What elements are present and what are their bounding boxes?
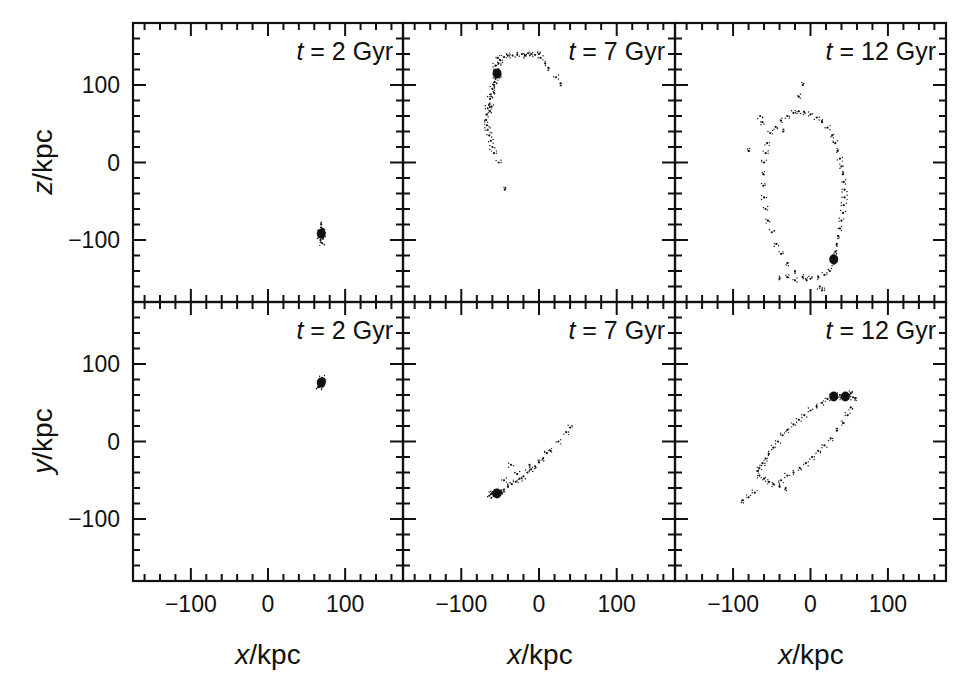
data-point bbox=[783, 129, 784, 130]
data-point bbox=[513, 481, 514, 482]
data-point bbox=[812, 409, 813, 410]
data-point bbox=[503, 491, 504, 492]
time-value: = 2 Gyr bbox=[303, 316, 393, 344]
data-point bbox=[763, 123, 764, 124]
data-point bbox=[491, 150, 492, 151]
data-point bbox=[842, 171, 843, 172]
data-point bbox=[803, 414, 805, 416]
data-point bbox=[490, 491, 491, 492]
data-point bbox=[801, 414, 802, 415]
data-point bbox=[490, 497, 491, 498]
data-point bbox=[489, 104, 490, 105]
data-point bbox=[764, 185, 765, 186]
data-point bbox=[743, 500, 744, 501]
data-point bbox=[800, 94, 801, 95]
data-point bbox=[808, 411, 809, 412]
data-point bbox=[503, 479, 505, 481]
data-point bbox=[814, 119, 815, 120]
data-point bbox=[831, 268, 832, 269]
data-point bbox=[801, 82, 802, 83]
data-point bbox=[788, 262, 789, 263]
data-point bbox=[814, 456, 815, 457]
data-point bbox=[491, 146, 493, 148]
data-point bbox=[529, 55, 530, 56]
data-point bbox=[508, 466, 509, 467]
data-point bbox=[758, 468, 759, 469]
data-point bbox=[840, 165, 842, 167]
data-point bbox=[489, 145, 490, 146]
data-point bbox=[785, 431, 786, 432]
data-point bbox=[845, 415, 846, 416]
data-point bbox=[497, 62, 498, 63]
data-point bbox=[757, 118, 758, 119]
data-point bbox=[826, 447, 827, 448]
data-point bbox=[845, 412, 846, 413]
data-point bbox=[761, 160, 762, 161]
data-point bbox=[759, 465, 760, 466]
data-point bbox=[789, 116, 790, 117]
data-point bbox=[767, 131, 768, 132]
data-point bbox=[775, 443, 776, 444]
data-point bbox=[502, 59, 503, 60]
data-point bbox=[503, 187, 504, 188]
data-point bbox=[837, 159, 838, 160]
data-point bbox=[797, 95, 798, 96]
data-point bbox=[320, 227, 321, 228]
data-point bbox=[568, 431, 569, 432]
y-tick-label: 100 bbox=[82, 351, 120, 377]
data-point bbox=[492, 84, 493, 85]
data-point bbox=[775, 243, 777, 245]
data-point bbox=[749, 150, 750, 151]
data-point bbox=[778, 251, 779, 252]
data-point bbox=[840, 210, 841, 211]
y-tick-label: −100 bbox=[68, 506, 120, 532]
data-point bbox=[842, 165, 843, 166]
data-point bbox=[320, 223, 321, 224]
data-point bbox=[808, 115, 809, 116]
data-point bbox=[788, 277, 789, 278]
data-point bbox=[807, 277, 808, 278]
data-point bbox=[792, 112, 794, 114]
data-point bbox=[784, 477, 785, 478]
data-point bbox=[841, 191, 842, 192]
data-point bbox=[802, 276, 803, 277]
data-point bbox=[761, 469, 762, 470]
data-point bbox=[822, 287, 823, 288]
data-point bbox=[499, 59, 500, 60]
data-point bbox=[523, 53, 524, 54]
data-point bbox=[765, 477, 766, 478]
data-point bbox=[522, 475, 524, 477]
data-point bbox=[548, 69, 549, 70]
data-point bbox=[779, 487, 780, 488]
data-point bbox=[519, 56, 520, 57]
data-point bbox=[782, 251, 783, 252]
data-point bbox=[497, 161, 499, 163]
data-point bbox=[557, 440, 559, 442]
x-tick-label: −100 bbox=[165, 591, 217, 617]
data-point bbox=[509, 54, 510, 55]
data-point bbox=[317, 238, 318, 239]
data-point bbox=[833, 252, 834, 253]
data-point bbox=[747, 496, 749, 498]
satellite-core bbox=[493, 488, 502, 498]
data-point bbox=[487, 116, 488, 117]
data-point bbox=[820, 451, 821, 452]
data-point bbox=[839, 396, 840, 397]
data-point bbox=[808, 461, 809, 462]
data-point bbox=[841, 420, 842, 421]
data-point bbox=[761, 465, 762, 466]
data-point bbox=[768, 453, 769, 454]
data-point bbox=[796, 111, 797, 112]
data-point bbox=[560, 439, 561, 440]
data-point bbox=[808, 407, 809, 408]
data-point bbox=[793, 474, 794, 475]
data-point bbox=[837, 235, 838, 236]
data-point bbox=[501, 490, 502, 491]
x-tick-label: 0 bbox=[533, 591, 546, 617]
x-tick-label: 0 bbox=[262, 591, 275, 617]
data-point bbox=[749, 148, 750, 149]
data-point bbox=[826, 127, 828, 129]
data-point bbox=[849, 413, 850, 414]
data-point bbox=[763, 478, 765, 480]
data-point bbox=[494, 93, 495, 94]
